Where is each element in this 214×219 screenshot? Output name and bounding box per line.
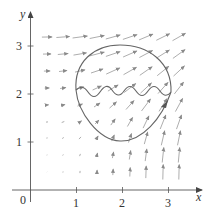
- field-arrow-icon: [75, 70, 85, 72]
- field-arrow-icon: [61, 105, 65, 106]
- field-arrow-icon: [112, 152, 113, 158]
- field-arrow-icon: [145, 149, 147, 161]
- field-arrow-icon: [142, 99, 151, 111]
- field-arrow-icon: [63, 155, 64, 156]
- x-tick-label-1: 1: [73, 196, 79, 210]
- field-arrow-icon: [97, 153, 98, 157]
- field-arrow-icon: [106, 52, 120, 57]
- field-arrow-icon: [177, 115, 182, 129]
- wavy-line: [76, 86, 171, 96]
- field-arrow-icon: [78, 121, 81, 123]
- field-arrow-icon: [106, 68, 120, 74]
- field-arrow-icon: [126, 101, 134, 110]
- field-arrow-icon: [108, 85, 118, 91]
- field-arrow-icon: [106, 35, 120, 39]
- field-arrow-icon: [90, 36, 105, 39]
- field-arrow-icon: [160, 115, 166, 129]
- field-arrow-icon: [93, 86, 102, 90]
- field-arrow-icon: [60, 88, 66, 89]
- y-axis-label: y: [19, 7, 26, 21]
- orientation-arrowhead-icon: [161, 100, 168, 108]
- vector-field-figure: y x 0 1 2 3 1 2 3: [0, 0, 214, 219]
- field-arrow-icon: [139, 51, 152, 58]
- closed-curve: [76, 45, 171, 141]
- field-arrow-icon: [127, 118, 132, 127]
- field-arrow-icon: [79, 137, 81, 139]
- field-arrow-icon: [123, 51, 137, 57]
- field-arrow-icon: [161, 131, 164, 146]
- field-arrow-icon: [158, 82, 168, 93]
- y-tick-label-1: 1: [16, 135, 22, 149]
- field-arrow-icon: [96, 136, 98, 140]
- field-arrow-icon: [174, 82, 183, 94]
- field-arrow-icon: [59, 71, 67, 72]
- field-arrow-icon: [62, 138, 64, 139]
- field-arrow-icon: [73, 36, 88, 38]
- x-axis-label: x: [195, 190, 202, 204]
- origin-label: 0: [20, 193, 26, 207]
- y-tick-label-3: 3: [16, 39, 22, 53]
- field-arrow-icon: [175, 98, 182, 111]
- upper-arc: [76, 45, 171, 92]
- field-arrow-icon: [173, 50, 185, 59]
- field-arrow-icon: [144, 132, 147, 144]
- field-arrow-icon: [156, 34, 169, 41]
- y-tick-label-2: 2: [16, 87, 22, 101]
- field-arrow-icon: [139, 34, 153, 40]
- field-arrow-icon: [58, 54, 68, 55]
- field-arrow-icon: [56, 37, 69, 38]
- x-tick-label-3: 3: [165, 196, 171, 210]
- field-arrow-icon: [110, 102, 117, 108]
- field-arrow-icon: [80, 154, 81, 156]
- field-arrow-icon: [94, 103, 100, 107]
- field-arrow-icon: [95, 120, 99, 124]
- field-arrow-icon: [178, 148, 179, 163]
- x-tick-label-2: 2: [119, 196, 125, 210]
- field-arrow-icon: [124, 67, 137, 74]
- field-arrow-icon: [62, 122, 65, 123]
- field-arrow-icon: [91, 69, 103, 73]
- field-arrow-icon: [129, 151, 130, 160]
- field-arrow-icon: [123, 35, 137, 40]
- field-arrow-icon: [143, 116, 149, 128]
- field-arrow-icon: [140, 67, 152, 76]
- field-arrow-icon: [174, 66, 185, 76]
- field-arrow-icon: [129, 134, 132, 143]
- field-arrow-icon: [178, 131, 181, 146]
- field-arrow-icon: [111, 119, 115, 125]
- field-arrow-icon: [157, 50, 170, 58]
- field-arrow-icon: [162, 148, 164, 163]
- field-arrow-icon: [173, 33, 186, 40]
- lower-bowl: [76, 90, 171, 141]
- field-arrow-icon: [74, 53, 87, 55]
